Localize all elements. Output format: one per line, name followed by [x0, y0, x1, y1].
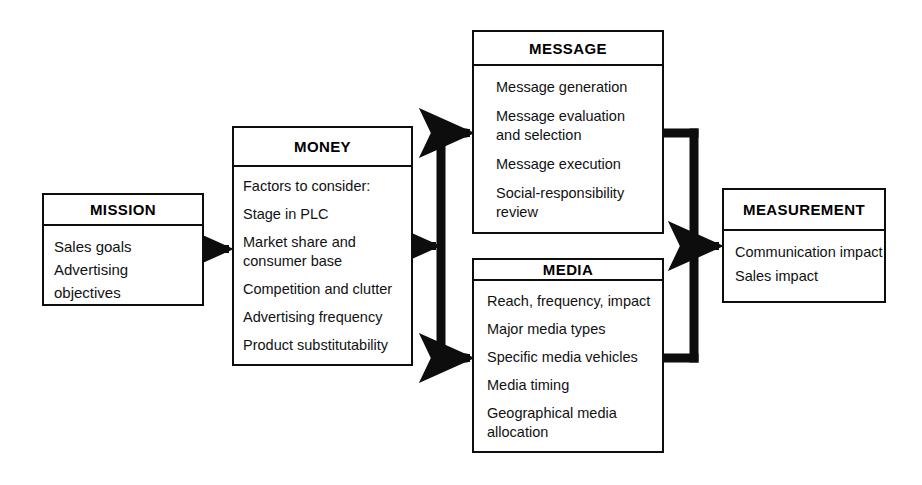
- node-money-header: MONEY: [234, 128, 411, 167]
- node-mission-body: Sales goals Advertising objectives: [44, 226, 202, 304]
- node-money-item: Factors to consider:: [243, 177, 402, 196]
- node-message-body: Message generation Message evaluation an…: [474, 66, 662, 232]
- node-mission-header: MISSION: [44, 195, 202, 226]
- node-money-item: Stage in PLC: [243, 205, 402, 224]
- node-measurement-header: MEASUREMENT: [724, 190, 884, 231]
- node-media-body: Reach, frequency, impact Major media typ…: [474, 281, 662, 451]
- node-measurement-item: Sales impact: [735, 264, 884, 288]
- node-message[interactable]: MESSAGE Message generation Message evalu…: [472, 30, 664, 234]
- node-media-item: Media timing: [487, 376, 662, 395]
- node-measurement-item: Communication impact: [735, 240, 884, 264]
- node-message-item: Social-responsibility review: [496, 184, 662, 222]
- node-money-item: Market share and consumer base: [243, 233, 402, 271]
- node-message-header: MESSAGE: [474, 32, 662, 66]
- diagram-canvas: MISSION Sales goals Advertising objectiv…: [0, 0, 922, 485]
- node-money-body: Factors to consider: Stage in PLC Market…: [234, 167, 411, 364]
- node-media-item: Reach, frequency, impact: [487, 292, 662, 311]
- connector-merge-bracket: [666, 133, 694, 358]
- node-money-item: Product substitutability: [243, 336, 402, 355]
- node-money[interactable]: MONEY Factors to consider: Stage in PLC …: [232, 126, 413, 366]
- node-measurement-body: Communication impact Sales impact: [724, 231, 884, 301]
- node-media-item: Geographical media allocation: [487, 404, 662, 442]
- node-media-header: MEDIA: [474, 260, 662, 281]
- node-money-item: Competition and clutter: [243, 280, 402, 299]
- node-mission[interactable]: MISSION Sales goals Advertising objectiv…: [42, 193, 204, 306]
- node-mission-item: Sales goals: [54, 235, 192, 258]
- node-mission-item: Advertising objectives: [54, 258, 192, 304]
- node-message-item: Message execution: [496, 155, 662, 174]
- node-message-item: Message evaluation and selection: [496, 107, 662, 145]
- node-message-item: Message generation: [496, 78, 662, 97]
- node-measurement[interactable]: MEASUREMENT Communication impact Sales i…: [722, 188, 886, 303]
- connector-split-bracket: [441, 133, 463, 358]
- node-media-item: Major media types: [487, 320, 662, 339]
- node-media-item: Specific media vehicles: [487, 348, 662, 367]
- node-media[interactable]: MEDIA Reach, frequency, impact Major med…: [472, 258, 664, 453]
- node-money-item: Advertising frequency: [243, 308, 402, 327]
